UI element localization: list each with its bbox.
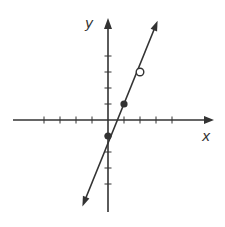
x-axis-label: x [201,128,211,144]
line-arrow-up-icon [151,21,158,32]
coordinate-graph: y x [0,0,225,227]
y-axis-label: y [84,15,94,31]
axes [13,18,214,212]
closed-point [120,100,127,107]
graph-line [85,28,154,199]
line-arrow-down-icon [82,196,89,207]
closed-point [104,132,111,139]
open-point [136,68,144,76]
y-axis-arrow-icon [104,18,112,29]
plot-line [82,21,157,207]
x-axis-arrow-icon [204,116,214,124]
